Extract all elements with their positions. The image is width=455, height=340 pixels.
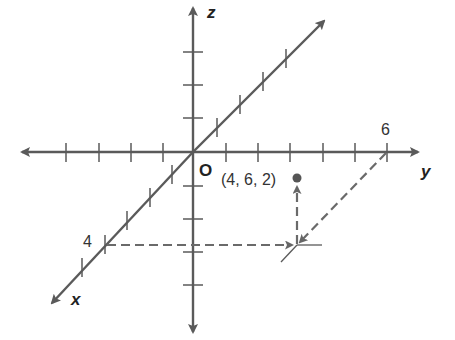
- origin-label: O: [199, 161, 212, 180]
- y-tick-label-6: 6: [381, 121, 390, 138]
- z-axis-label: z: [206, 3, 216, 22]
- x-axis-label: x: [70, 290, 82, 309]
- y-axis-label: y: [420, 162, 432, 181]
- coordinate-diagram: z y x O (4, 6, 2) 6 4: [0, 0, 455, 340]
- dashed-line-y6-to-corner: [300, 153, 386, 242]
- corner-marker: [281, 245, 322, 262]
- x-tick-label-4: 4: [83, 233, 92, 250]
- point-label: (4, 6, 2): [221, 171, 276, 188]
- point-4-6-2: [293, 174, 302, 183]
- y-axis: [22, 143, 418, 162]
- x-axis: [52, 21, 324, 303]
